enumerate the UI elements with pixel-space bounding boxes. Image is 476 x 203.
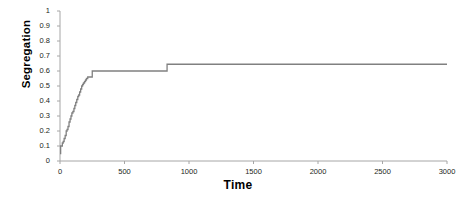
x-tick-label: 0	[40, 167, 80, 176]
y-tick-label: 0	[24, 156, 50, 165]
y-tick-label: 0.5	[24, 81, 50, 90]
x-tick-label: 3000	[427, 167, 467, 176]
segregation-time-chart: Segregation Time 00.10.20.30.40.50.60.70…	[0, 0, 476, 203]
y-tick-label: 0.1	[24, 141, 50, 150]
x-tick-label: 1500	[234, 167, 274, 176]
x-tick-label: 2000	[298, 167, 338, 176]
data-series-line	[60, 64, 447, 153]
y-tick-label: 0.4	[24, 96, 50, 105]
y-tick-label: 0.3	[24, 111, 50, 120]
y-tick-label: 0.6	[24, 66, 50, 75]
plot-area: 00.10.20.30.40.50.60.70.80.91 0500100015…	[0, 0, 476, 203]
x-tick-label: 2500	[363, 167, 403, 176]
y-tick-label: 0.8	[24, 36, 50, 45]
x-tick-label: 1000	[169, 167, 209, 176]
y-tick-label: 1	[24, 6, 50, 15]
y-tick-label: 0.7	[24, 51, 50, 60]
y-tick-label: 0.2	[24, 126, 50, 135]
x-tick-label: 500	[105, 167, 145, 176]
y-tick-label: 0.9	[24, 21, 50, 30]
